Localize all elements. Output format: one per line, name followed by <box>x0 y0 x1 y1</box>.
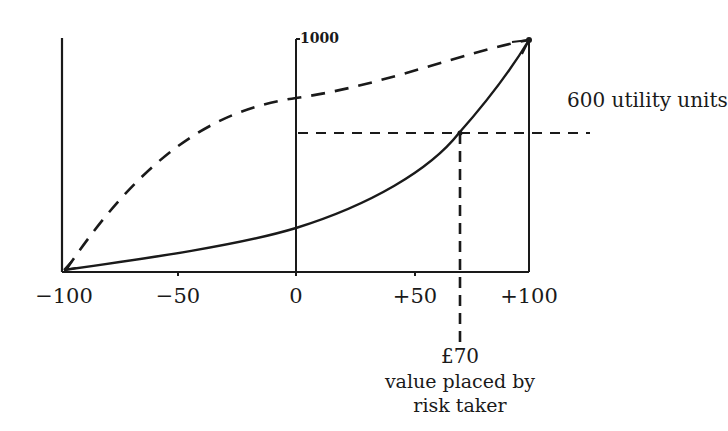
x-tick-label-plus100: +100 <box>500 284 558 308</box>
intersection-dot <box>458 131 463 136</box>
value-amount-label: £70 <box>441 344 479 368</box>
x-tick-label-minus100: −100 <box>35 284 93 308</box>
x-tick-label-zero: 0 <box>289 284 302 308</box>
value-caption-line2: risk taker <box>413 393 506 417</box>
utility-reference-label: 600 utility units <box>567 88 728 112</box>
x-tick-label-minus50: −50 <box>156 284 200 308</box>
value-caption-line1: value placed by <box>385 369 535 393</box>
endpoint-dot <box>526 37 532 43</box>
x-tick-label-plus50: +50 <box>393 284 437 308</box>
y-axis-max-label: 1000 <box>300 30 339 46</box>
